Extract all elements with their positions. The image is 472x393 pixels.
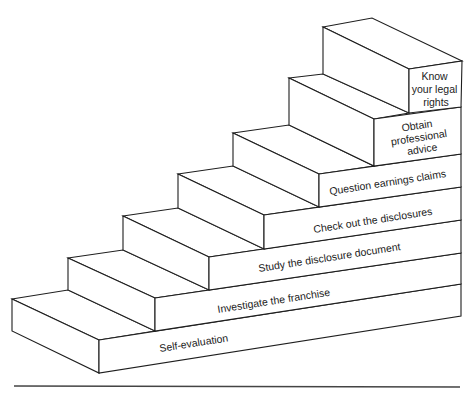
bottom-rule [14,386,460,387]
step-7-label-line-3: rights [423,96,449,108]
step-7-label-line-1: Know [421,70,448,82]
step-7-label-line-2: your legal [412,83,458,95]
staircase-diagram: Self-evaluation Investigate the franchis… [0,0,472,393]
